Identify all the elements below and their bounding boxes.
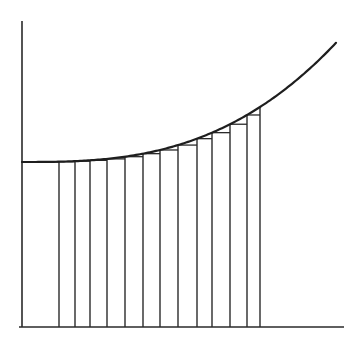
riemann-sum-diagram bbox=[0, 0, 362, 352]
rectangles-group bbox=[22, 107, 260, 327]
function-curve bbox=[22, 43, 336, 162]
